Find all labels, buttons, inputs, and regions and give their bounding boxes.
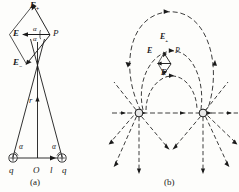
label-angle-right: α: [52, 143, 56, 151]
b-inner-field-loop: [146, 76, 197, 110]
label-e-plus-a: E+: [30, 1, 39, 12]
label-origin-o: O: [33, 166, 40, 175]
b-right-charge-fan: [174, 82, 236, 172]
b-outer-field-loop: [130, 12, 214, 112]
b-fan-arrow-l1: [137, 169, 141, 174]
b-fan-arrow-l2: [114, 161, 119, 167]
label-angle-upper-at-p: α: [33, 26, 37, 33]
angle-arc-lower-at-p: [40, 35, 41, 39]
label-e-minus-b: E−: [161, 69, 169, 80]
b-left-charge-fan: [110, 82, 168, 172]
label-angle-left: α: [19, 143, 23, 151]
angle-arc-upper-at-p: [40, 30, 41, 34]
label-point-p-b: P: [175, 47, 180, 55]
label-e-resultant-a: E: [13, 29, 19, 38]
label-charge-left-q: q: [9, 166, 14, 175]
caption-panel-a: (a): [30, 178, 40, 187]
vector-e-minus: [27, 35, 51, 64]
b-vector-e-resultant-arrowhead: [157, 62, 162, 66]
label-distance-r: r: [29, 96, 32, 105]
b-axis-arrow-4: [227, 111, 232, 114]
line-right-charge-to-p: [31, 39, 63, 157]
b-fan-arrow-r2: [224, 161, 229, 167]
b-axis-arrow-3: [207, 111, 212, 114]
b-middle-field-loop: [141, 51, 201, 110]
caption-panel-b: (b): [164, 178, 175, 187]
panel-b: [109, 9, 238, 174]
b-inner-loop-arrow: [169, 73, 174, 78]
label-e-resultant-b: E: [147, 47, 152, 55]
separation-arrowhead: [50, 156, 56, 161]
label-charge-right-q: q: [62, 166, 67, 175]
label-point-p-a: P: [53, 29, 59, 38]
b-charge-right-circle: [199, 109, 207, 117]
r-arrowhead: [35, 96, 39, 101]
b-fan-arrow-l3: [109, 140, 115, 145]
b-middle-loop-arrow: [169, 48, 174, 53]
b-charge-left-circle: [135, 109, 143, 117]
vector-e-resultant-arrowhead: [22, 32, 28, 37]
vector-e-minus-arrowhead: [26, 60, 32, 65]
label-e-minus-a: E−: [13, 58, 22, 69]
b-fan-arrow-r1: [201, 169, 205, 174]
b-axis-arrow-5: [180, 111, 185, 114]
label-e-plus-b: E+: [160, 33, 168, 44]
label-separation-l: l: [50, 166, 53, 175]
b-outer-loop-arrow: [164, 9, 169, 14]
label-angle-lower-at-p: α: [33, 36, 37, 43]
b-axis-arrow-1: [121, 111, 126, 114]
b-outer-loop-arrow-left: [126, 62, 132, 68]
